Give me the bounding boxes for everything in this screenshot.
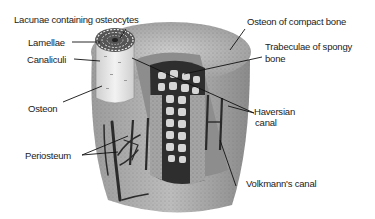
label-lacunae: Lacunae containing osteocytes xyxy=(14,14,139,25)
label-periosteum: Periosteum xyxy=(25,150,71,161)
label-volkmanns-canal: Volkmann's canal xyxy=(246,178,316,189)
label-haversian-line2: canal xyxy=(255,117,277,128)
label-canaliculi: Canaliculi xyxy=(27,54,66,65)
label-lamellae: Lamellae xyxy=(28,37,65,48)
label-osteon-compact-bone: Osteon of compact bone xyxy=(247,16,346,27)
label-trabeculae-line1: Trabeculae of spongy xyxy=(265,41,352,52)
label-haversian-line1: Haversian xyxy=(254,106,295,117)
bone-structure-diagram: Lacunae containing osteocytes Lamellae C… xyxy=(0,0,375,219)
label-trabeculae-line2: bone xyxy=(265,53,285,64)
osteon-cylinder xyxy=(95,28,135,103)
label-osteon: Osteon xyxy=(28,103,57,114)
